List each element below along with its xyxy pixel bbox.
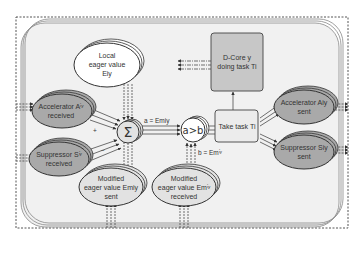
suppressor-sent-line2: sent [297, 153, 310, 160]
accelerator-sent-line2: sent [297, 108, 310, 115]
local-eager-line2: eager value [89, 61, 126, 69]
edge-label-b: b = Emⁱʸ [198, 149, 223, 156]
dcore-line2: doing task Ti [217, 63, 257, 71]
local-eager-line3: Eiy [102, 70, 112, 78]
take-task-label: Take task Ti [219, 123, 256, 130]
plus-sign: + [93, 127, 97, 134]
suppressor-received-line1: Suppressor Sⁱʸ [36, 151, 82, 159]
node-take-task: Take task Ti [215, 110, 258, 142]
eager-value-flow-diagram: Local eager value Eiy Accelerator Aⁱʸ re… [0, 0, 361, 261]
modified-sent-line2: eager value Emiy [84, 184, 139, 192]
modified-sent-line3: sent [104, 193, 117, 200]
edge-label-a: a = Emiy [144, 117, 170, 125]
node-dcore: D-Core y doing task Ti [211, 33, 263, 91]
accelerator-received-line1: Accelerator Aⁱʸ [39, 103, 85, 110]
suppressor-received-line2: received [46, 160, 73, 167]
compare-label: a>b [183, 125, 204, 136]
accelerator-sent-line1: Accelerator Aiy [281, 99, 328, 107]
modified-sent-line1: Modified [98, 175, 125, 182]
sum-icon: Σ [124, 124, 133, 140]
accelerator-received-line2: received [48, 112, 75, 119]
minus-sign: − [101, 147, 105, 154]
suppressor-sent-line1: Suppressor Siy [280, 144, 328, 152]
local-eager-line1: Local [99, 52, 116, 59]
dcore-line1: D-Core y [223, 54, 252, 62]
modified-received-line2: eager value Emⁱʸ [158, 184, 211, 192]
modified-received-line3: received [171, 193, 198, 200]
modified-received-line1: Modified [171, 175, 198, 182]
